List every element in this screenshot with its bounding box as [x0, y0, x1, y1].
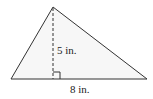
- base-label: 8 in.: [70, 84, 90, 95]
- height-label: 5 in.: [57, 45, 77, 56]
- triangle-figure: 5 in. 8 in.: [0, 0, 153, 99]
- triangle-shape: [11, 7, 147, 79]
